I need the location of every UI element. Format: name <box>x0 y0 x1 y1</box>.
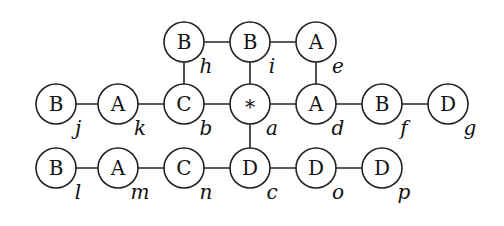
node-c: Dc <box>230 148 278 204</box>
node-symbol: C <box>176 156 191 180</box>
node-e: Ae <box>296 22 344 78</box>
node-symbol: D <box>440 92 456 116</box>
node-symbol: A <box>110 92 126 116</box>
node-l: Bl <box>36 148 81 204</box>
node-j: Bj <box>36 84 81 140</box>
node-n: Cn <box>164 148 212 204</box>
node-symbol: A <box>308 30 324 54</box>
node-label: k <box>134 116 146 140</box>
node-i: Bi <box>230 22 275 78</box>
node-m: Am <box>98 148 149 204</box>
node-label: n <box>200 180 213 204</box>
node-symbol: A <box>308 92 324 116</box>
node-h: Bh <box>164 22 212 78</box>
node-label: h <box>200 54 213 78</box>
node-symbol: B <box>49 92 64 116</box>
node-label: c <box>266 180 277 204</box>
node-symbol: B <box>375 92 390 116</box>
node-symbol: B <box>243 30 258 54</box>
node-symbol: A <box>110 156 126 180</box>
node-label: m <box>131 180 150 204</box>
node-symbol: D <box>374 156 390 180</box>
node-label: e <box>332 54 344 78</box>
node-symbol: B <box>177 30 192 54</box>
node-symbol: * <box>245 95 255 119</box>
node-b: Cb <box>164 84 212 140</box>
node-label: f <box>398 116 411 140</box>
node-symbol: D <box>242 156 258 180</box>
node-label: i <box>269 54 275 78</box>
node-label: d <box>332 116 345 140</box>
node-symbol: D <box>308 156 324 180</box>
node-k: Ak <box>98 84 146 140</box>
node-label: j <box>71 116 81 140</box>
node-label: b <box>200 116 213 140</box>
node-symbol: C <box>176 92 191 116</box>
node-symbol: B <box>49 156 64 180</box>
node-g: Dg <box>428 84 476 140</box>
graph-diagram: BhBiAeBjAkCb*aAdBfDgBlAmCnDcDoDp <box>0 0 504 226</box>
node-label: l <box>75 180 81 204</box>
node-label: a <box>266 116 278 140</box>
node-f: Bf <box>362 84 411 140</box>
node-o: Do <box>296 148 344 204</box>
node-a: *a <box>230 84 278 140</box>
node-label: p <box>398 180 411 204</box>
nodes-layer: BhBiAeBjAkCb*aAdBfDgBlAmCnDcDoDp <box>36 22 476 204</box>
node-label: g <box>464 116 477 140</box>
node-d: Ad <box>296 84 344 140</box>
node-label: o <box>332 180 344 204</box>
node-p: Dp <box>362 148 411 204</box>
